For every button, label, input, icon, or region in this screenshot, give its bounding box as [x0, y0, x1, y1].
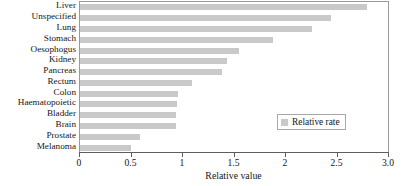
- x-axis-tick-label: 2.5: [331, 158, 343, 168]
- category-axis: LiverUnspecifiedLungStomachOesophogusKid…: [0, 0, 78, 152]
- x-axis-tick-label: 1: [180, 158, 185, 168]
- x-axis-tick-label: 0.5: [125, 158, 137, 168]
- legend-label-relative-rate: Relative rate: [292, 117, 340, 127]
- category-label: Bladder: [0, 109, 76, 118]
- bar: [79, 15, 331, 21]
- category-label: Liver: [0, 1, 76, 10]
- category-label: Lung: [0, 23, 76, 32]
- y-axis-line: [79, 1, 80, 153]
- category-label: Kidney: [0, 55, 76, 64]
- bar: [79, 101, 177, 107]
- x-axis-title: Relative value: [79, 170, 388, 181]
- category-label: Oesophogus: [0, 45, 76, 54]
- x-axis-tick-label: 3.0: [382, 158, 394, 168]
- bars-container: [79, 2, 388, 153]
- bar: [79, 69, 222, 75]
- legend-swatch-relative-rate: [281, 119, 288, 126]
- category-label: Haematopoietic: [0, 98, 76, 107]
- bar: [79, 48, 239, 54]
- bar: [79, 134, 140, 140]
- plot-area: [79, 1, 389, 153]
- bar: [79, 123, 176, 129]
- x-axis-tick-label: 0: [77, 158, 82, 168]
- x-axis-tick-label: 1.5: [228, 158, 240, 168]
- legend: Relative rate: [277, 114, 346, 130]
- category-label: Melanoma: [0, 142, 76, 151]
- category-label: Colon: [0, 88, 76, 97]
- bar: [79, 4, 367, 10]
- category-label: Prostate: [0, 131, 76, 140]
- category-label: Rectum: [0, 77, 76, 86]
- bar: [79, 91, 178, 97]
- category-label: Pancreas: [0, 66, 76, 75]
- bar: [79, 37, 273, 43]
- bar: [79, 26, 312, 32]
- bar: [79, 80, 192, 86]
- bar: [79, 145, 131, 151]
- x-axis-tick-label: 2: [283, 158, 288, 168]
- category-label: Unspecified: [0, 12, 76, 21]
- category-label: Stomach: [0, 34, 76, 43]
- bar: [79, 58, 227, 64]
- relative-rate-bar-chart: LiverUnspecifiedLungStomachOesophogusKid…: [0, 0, 403, 186]
- category-label: Brain: [0, 120, 76, 129]
- bar: [79, 112, 176, 118]
